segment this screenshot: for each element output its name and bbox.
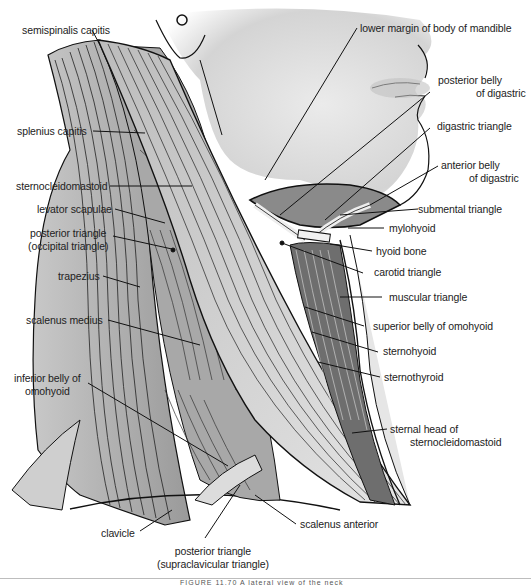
label-muscular-triangle: muscular triangle <box>389 291 467 304</box>
label-line: (occipital triangle) <box>28 240 108 253</box>
label-line: posterior belly <box>438 74 526 87</box>
label-posterior-belly-digastric: posterior belly of digastric <box>438 74 526 100</box>
figure-caption: FIGURE 11.70 A lateral view of the neck <box>180 579 343 586</box>
label-semispinalis-capitis: semispinalis capitis <box>22 24 110 37</box>
label-scalenus-medius: scalenus medius <box>26 314 103 327</box>
label-line: of digastric <box>438 87 526 100</box>
label-line: posterior triangle <box>157 545 269 558</box>
label-line: anterior belly <box>441 159 519 172</box>
label-sternothyroid: sternothyroid <box>384 371 443 384</box>
label-mylohyoid: mylohyoid <box>389 222 435 235</box>
label-trapezius: trapezius <box>58 270 100 283</box>
label-posterior-triangle-supraclavicular: posterior triangle (supraclavicular tria… <box>157 545 269 571</box>
label-line: sternocleidomastoid <box>390 436 501 449</box>
label-line: inferior belly of <box>14 372 81 385</box>
label-submental-triangle: submental triangle <box>418 203 502 216</box>
label-scalenus-anterior: scalenus anterior <box>300 518 378 531</box>
label-sternohyoid: sternohyoid <box>383 345 436 358</box>
label-carotid-triangle: carotid triangle <box>374 266 441 279</box>
label-splenius-capitis: splenius capitis <box>17 125 87 138</box>
label-line: of digastric <box>441 172 519 185</box>
label-anterior-belly-digastric: anterior belly of digastric <box>441 159 519 185</box>
label-line: posterior triangle <box>28 227 108 240</box>
label-inferior-belly-omohyoid: inferior belly of omohyoid <box>14 372 81 398</box>
label-hyoid-bone: hyoid bone <box>376 245 426 258</box>
label-clavicle: clavicle <box>101 527 135 540</box>
label-sternocleidomastoid: sternocleidomastoid <box>16 180 107 193</box>
label-levator-scapulae: levator scapulae <box>37 203 112 216</box>
label-line: omohyoid <box>14 385 81 398</box>
label-digastric-triangle: digastric triangle <box>437 120 512 133</box>
label-lower-margin-mandible: lower margin of body of mandible <box>360 22 511 35</box>
label-line: (supraclavicular triangle) <box>157 558 269 571</box>
label-line: sternal head of <box>390 423 501 436</box>
label-sternal-head-scm: sternal head of sternocleidomastoid <box>390 423 501 449</box>
label-superior-belly-omohyoid: superior belly of omohyoid <box>373 320 493 333</box>
label-posterior-triangle-occipital: posterior triangle (occipital triangle) <box>28 227 108 253</box>
digastric-region <box>250 184 400 242</box>
